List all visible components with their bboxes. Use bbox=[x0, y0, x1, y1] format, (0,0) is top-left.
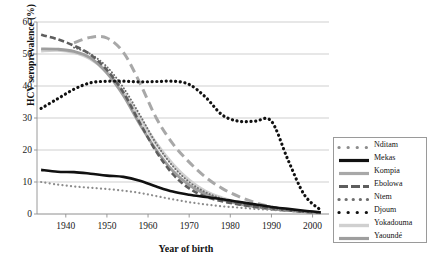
legend-swatch-nditam bbox=[337, 139, 371, 150]
legend-swatch-yokadouma bbox=[337, 217, 371, 228]
legend-swatch-yaound bbox=[337, 230, 371, 241]
legend-swatch-mekas bbox=[337, 152, 371, 163]
legend: NditamMekasKompiaEbolowaNtemDjoumYokadou… bbox=[333, 137, 427, 243]
legend-label-ebolowa: Ebolowa bbox=[374, 178, 402, 189]
legend-label-kompia: Kompia bbox=[374, 165, 400, 176]
legend-item-nditam[interactable]: Nditam bbox=[334, 138, 426, 151]
y-tick-label-10: 10 bbox=[23, 177, 33, 187]
legend-swatch-ebolowa bbox=[337, 178, 371, 189]
legend-label-ntem: Ntem bbox=[374, 191, 392, 202]
x-tick-label-1940: 1940 bbox=[56, 221, 75, 231]
x-tick-label-1960: 1960 bbox=[139, 221, 158, 231]
x-tick-label-1980: 1980 bbox=[221, 221, 240, 231]
legend-swatch-djoum bbox=[337, 204, 371, 215]
legend-swatch-kompia bbox=[337, 165, 371, 176]
x-tick-label-1950: 1950 bbox=[97, 221, 116, 231]
legend-item-djoum[interactable]: Djoum bbox=[334, 203, 426, 216]
series-line-ebolowa bbox=[41, 35, 321, 213]
x-tick-label-1990: 1990 bbox=[262, 221, 281, 231]
y-axis-title: HCV seroprevalence (%) bbox=[26, 0, 36, 130]
legend-label-nditam: Nditam bbox=[374, 139, 398, 150]
legend-label-mekas: Mekas bbox=[374, 152, 395, 163]
y-tick-label-20: 20 bbox=[23, 145, 33, 155]
series-line-djoum bbox=[41, 81, 321, 210]
legend-item-kompia[interactable]: Kompia bbox=[334, 164, 426, 177]
legend-label-yaound: Yaoundé bbox=[374, 230, 402, 241]
x-tick-label-2000: 2000 bbox=[303, 221, 322, 231]
legend-item-ebolowa[interactable]: Ebolowa bbox=[334, 177, 426, 190]
y-tick-label-0: 0 bbox=[27, 209, 32, 219]
series-line-yokadouma bbox=[41, 50, 321, 213]
legend-item-yaound[interactable]: Yaoundé bbox=[334, 229, 426, 242]
legend-swatch-ntem bbox=[337, 191, 371, 202]
legend-label-djoum: Djoum bbox=[374, 204, 396, 215]
series-line-mekas bbox=[41, 170, 321, 213]
x-axis-title: Year of birth bbox=[36, 243, 336, 254]
series-line-yaound bbox=[41, 49, 321, 213]
legend-item-yokadouma[interactable]: Yokadouma bbox=[334, 216, 426, 229]
legend-label-yokadouma: Yokadouma bbox=[374, 217, 412, 228]
series-line-kompia bbox=[74, 36, 288, 210]
legend-item-mekas[interactable]: Mekas bbox=[334, 151, 426, 164]
legend-item-ntem[interactable]: Ntem bbox=[334, 190, 426, 203]
x-tick-label-1970: 1970 bbox=[180, 221, 199, 231]
